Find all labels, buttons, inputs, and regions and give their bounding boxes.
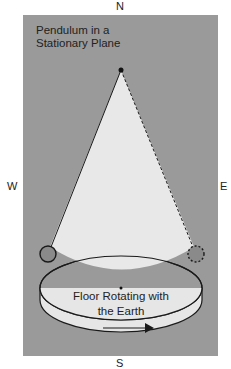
title-line-1: Pendulum in a: [36, 24, 120, 37]
diagram-title: Pendulum in a Stationary Plane: [36, 24, 120, 50]
floor-label-line-2: the Earth: [50, 304, 192, 319]
pendulum-bob-icon: [40, 246, 56, 262]
pendulum-bob-ghost-icon: [188, 246, 204, 262]
compass-south: S: [116, 357, 123, 369]
compass-west: W: [7, 180, 17, 192]
compass-east: E: [220, 180, 227, 192]
title-line-2: Stationary Plane: [36, 37, 120, 50]
pivot-point-icon: [119, 68, 124, 73]
floor-label-line-1: Floor Rotating with: [50, 289, 192, 304]
compass-north: N: [116, 0, 124, 12]
floor-label: Floor Rotating with the Earth: [50, 289, 192, 319]
